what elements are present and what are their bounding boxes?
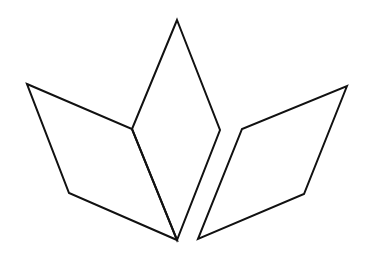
center-rhombus-shape: [132, 20, 220, 240]
right-rhombus-shape: [198, 86, 347, 239]
three-rhombi-figure: [0, 0, 370, 253]
diagram-canvas: [0, 0, 370, 253]
left-rhombus-shape: [27, 84, 177, 240]
